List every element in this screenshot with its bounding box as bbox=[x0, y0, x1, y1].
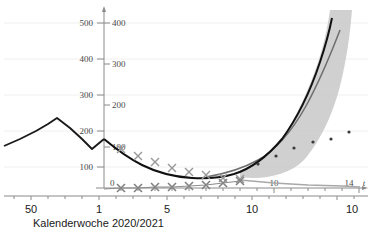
chart-canvas: 500 400 300 200 100 50 1 5 10 10 Kalende… bbox=[0, 0, 372, 232]
outer-y-tick-200: 200 bbox=[80, 126, 94, 136]
observed-point bbox=[292, 146, 295, 149]
x-axis-caption: Kalenderwoche 2020/2021 bbox=[33, 217, 164, 229]
forecast-chart: 500 400 300 200 100 50 1 5 10 10 Kalende… bbox=[0, 0, 372, 232]
outer-y-tick-300: 300 bbox=[80, 90, 94, 100]
outer-x-tick-5: 5 bbox=[164, 203, 170, 215]
observed-point bbox=[256, 162, 259, 165]
inner-y-tick-0: 0 bbox=[110, 178, 115, 188]
outer-y-tick-400: 400 bbox=[80, 54, 94, 64]
outer-y-tick-500: 500 bbox=[80, 18, 94, 28]
outer-x-tick-1: 1 bbox=[96, 203, 102, 215]
outer-y-tick-100: 100 bbox=[80, 162, 94, 172]
inner-y-tick-400: 400 bbox=[112, 18, 126, 28]
outer-x-tick-50: 50 bbox=[25, 203, 37, 215]
outer-x-tick-10a: 10 bbox=[246, 203, 258, 215]
outer-x-tick-10b: 10 bbox=[346, 203, 358, 215]
inner-y-tick-200: 200 bbox=[112, 100, 126, 110]
inner-y-tick-300: 300 bbox=[112, 59, 126, 69]
observed-point bbox=[311, 140, 314, 143]
observed-point bbox=[329, 137, 332, 140]
observed-point bbox=[347, 130, 350, 133]
observed-point bbox=[274, 154, 277, 157]
